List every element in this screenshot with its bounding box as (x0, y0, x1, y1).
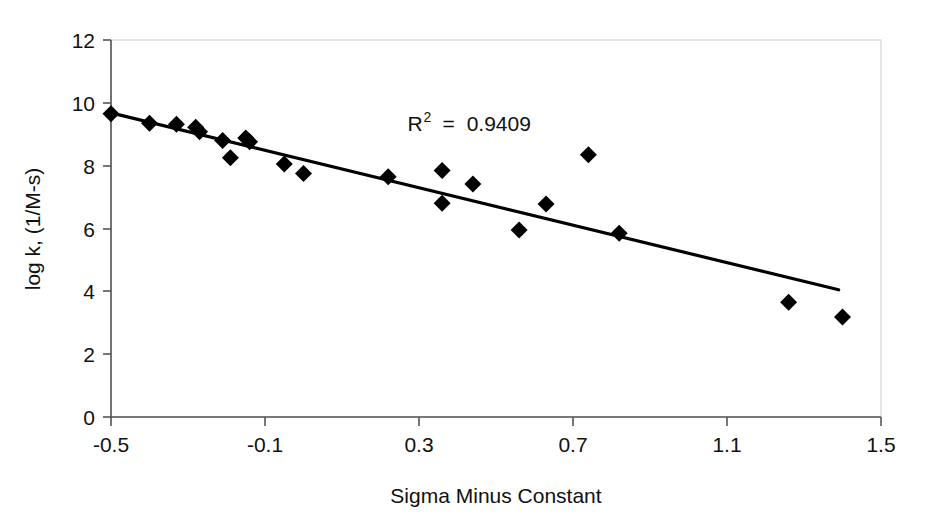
r-squared-value: 0.9409 (467, 112, 531, 135)
data-point-marker (295, 165, 312, 182)
x-tick-label-0p7: 0.7 (558, 433, 587, 456)
y-tick-label-12: 12 (72, 29, 95, 52)
x-axis-ticks (111, 417, 881, 426)
data-point-marker (434, 162, 451, 179)
y-tick-label-8: 8 (83, 155, 95, 178)
data-point-marker (538, 195, 555, 212)
x-tick-label-1p1: 1.1 (712, 433, 741, 456)
data-point-marker (834, 309, 851, 326)
data-point-marker (580, 146, 597, 163)
data-point-marker (780, 294, 797, 311)
scatter-plot-svg: 12 10 8 6 4 2 0 -0.5 -0.1 0.3 0.7 1.1 1.… (0, 0, 938, 523)
x-tick-label-0p3: 0.3 (404, 433, 433, 456)
y-tick-label-6: 6 (83, 218, 95, 241)
data-point-marker (276, 156, 293, 173)
r-squared-superscript: 2 (424, 109, 432, 125)
y-tick-label-10: 10 (72, 92, 95, 115)
y-tick-label-2: 2 (83, 343, 95, 366)
data-point-marker (214, 132, 231, 149)
y-axis-ticks (103, 40, 111, 417)
y-axis-title: log k, (1/M-s) (21, 168, 44, 291)
r-squared-annotation: R 2 = 0.9409 (407, 109, 530, 135)
x-tick-label-neg0p1: -0.1 (247, 433, 283, 456)
chart-container: 12 10 8 6 4 2 0 -0.5 -0.1 0.3 0.7 1.1 1.… (0, 0, 938, 523)
x-tick-label-neg0p5: -0.5 (93, 433, 129, 456)
x-axis-title: Sigma Minus Constant (390, 484, 601, 507)
x-tick-label-1p5: 1.5 (866, 433, 895, 456)
r-squared-equals: = (442, 112, 454, 135)
data-point-marker (464, 175, 481, 192)
y-tick-label-0: 0 (83, 406, 95, 429)
data-point-marker (103, 105, 120, 122)
data-point-marker (222, 149, 239, 166)
data-point-marker (141, 115, 158, 132)
data-point-marker (511, 222, 528, 239)
y-tick-label-4: 4 (83, 280, 95, 303)
data-point-marker (434, 195, 451, 212)
plot-frame (111, 40, 881, 417)
r-squared-prefix: R (407, 112, 422, 135)
